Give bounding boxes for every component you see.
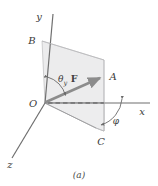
z-axis-label: z: [6, 159, 13, 170]
diagram-canvas: y x z B O A C F θy φ (a): [0, 0, 158, 186]
point-label-a: A: [108, 71, 116, 82]
x-axis-label: x: [139, 106, 145, 117]
y-axis-label: y: [35, 11, 42, 22]
z-axis-line: [12, 103, 45, 158]
phi-label: φ: [113, 116, 120, 126]
point-label-o: O: [29, 98, 37, 109]
theta-subscript: y: [62, 79, 67, 87]
force-vector-label: F: [71, 73, 78, 84]
force-vector-diagram: y x z B O A C F θy φ (a): [0, 0, 158, 186]
point-label-b: B: [27, 35, 35, 46]
point-label-c: C: [97, 136, 105, 147]
figure-caption: (a): [73, 170, 86, 180]
